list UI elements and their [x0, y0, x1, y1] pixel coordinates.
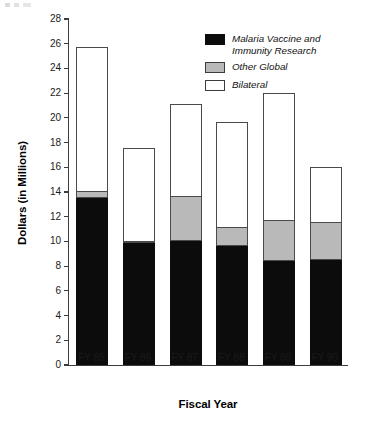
segment-bilateral: [76, 47, 108, 190]
segment-malaria-vaccine-research: [76, 198, 108, 365]
segment-bilateral: [123, 148, 155, 242]
x-tick-label: FY 85: [68, 352, 115, 363]
legend-label: Bilateral: [232, 79, 345, 91]
legend-label: Other Global: [232, 61, 345, 73]
y-axis-title: Dollars (in Millions): [14, 20, 30, 366]
legend-row: Other Global: [205, 61, 345, 74]
y-tick-mark: [64, 167, 69, 168]
y-tick-mark: [64, 142, 69, 143]
segment-malaria-vaccine-research: [216, 246, 248, 365]
y-tick-label: 24: [50, 61, 61, 75]
x-tick-label: FY 86: [115, 352, 162, 363]
y-tick-label: 12: [50, 210, 61, 224]
scan-artifact: [5, 3, 31, 7]
y-tick-mark: [64, 43, 69, 44]
bar-fy-89: [263, 93, 295, 365]
segment-other-global: [216, 227, 248, 247]
y-tick-mark: [64, 191, 69, 192]
x-tick-label: FY 90: [301, 352, 348, 363]
y-tick-label: 18: [50, 136, 61, 150]
bar-fy-90: [310, 167, 342, 365]
y-tick-label: 16: [50, 160, 61, 174]
y-tick-mark: [64, 93, 69, 94]
y-tick-mark: [64, 216, 69, 217]
y-tick-label: 8: [55, 259, 61, 273]
y-tick-mark: [64, 340, 69, 341]
segment-other-global: [170, 196, 202, 242]
y-tick-mark: [64, 364, 69, 365]
legend-label: Malaria Vaccine andImmunity Research: [232, 33, 345, 56]
segment-other-global: [263, 220, 295, 261]
y-tick-label: 26: [50, 37, 61, 51]
stacked-bar-chart: Dollars (in Millions) 024681012141618202…: [0, 0, 370, 425]
segment-bilateral: [216, 122, 248, 227]
y-tick-mark: [64, 315, 69, 316]
bar-fy-87: [170, 104, 202, 365]
y-tick-label: 4: [55, 309, 61, 323]
y-tick-label: 28: [50, 12, 61, 26]
y-tick-label: 10: [50, 234, 61, 248]
y-tick-mark: [64, 117, 69, 118]
y-tick-mark: [64, 266, 69, 267]
legend-row: Malaria Vaccine andImmunity Research: [205, 33, 345, 56]
y-tick-label: 2: [55, 333, 61, 347]
y-tick-mark: [64, 241, 69, 242]
y-tick-mark: [64, 18, 69, 19]
segment-bilateral: [170, 104, 202, 195]
y-tick-mark: [64, 290, 69, 291]
segment-malaria-vaccine-research: [310, 260, 342, 365]
y-tick-label: 14: [50, 185, 61, 199]
white-swatch-icon: [205, 80, 225, 91]
gray-swatch-icon: [205, 62, 225, 73]
y-tick-label: 20: [50, 111, 61, 125]
bar-fy-85: [76, 47, 108, 365]
segment-bilateral: [263, 93, 295, 220]
bar-fy-88: [216, 122, 248, 365]
legend-row: Bilateral: [205, 79, 345, 92]
segment-other-global: [123, 241, 155, 243]
y-tick-label: 6: [55, 284, 61, 298]
x-tick-label: FY 87: [161, 352, 208, 363]
black-swatch-icon: [205, 34, 225, 45]
y-tick-label: 0: [55, 358, 61, 372]
y-tick-mark: [64, 68, 69, 69]
segment-other-global: [76, 191, 108, 198]
x-tick-label: FY 89: [255, 352, 302, 363]
chart-legend: Malaria Vaccine andImmunity ResearchOthe…: [205, 33, 345, 97]
segment-malaria-vaccine-research: [170, 241, 202, 365]
x-axis-title: Fiscal Year: [68, 398, 348, 410]
bar-fy-86: [123, 148, 155, 365]
segment-other-global: [310, 222, 342, 260]
y-tick-label: 22: [50, 86, 61, 100]
x-tick-label: FY 88: [208, 352, 255, 363]
segment-bilateral: [310, 167, 342, 221]
segment-malaria-vaccine-research: [263, 261, 295, 365]
segment-malaria-vaccine-research: [123, 243, 155, 365]
